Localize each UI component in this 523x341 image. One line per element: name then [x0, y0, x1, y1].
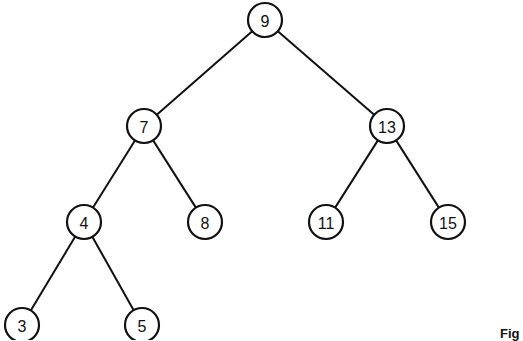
node-value: 11: [318, 215, 335, 232]
tree-node-4: 4: [67, 205, 101, 239]
node-value: 3: [18, 318, 27, 335]
tree-edge-13-11: [335, 140, 378, 207]
tree-edges: [31, 31, 439, 310]
tree-edge-4-5: [92, 237, 133, 310]
figure-caption-label: Fig: [500, 326, 520, 341]
node-value: 15: [439, 215, 457, 232]
tree-node-7: 7: [127, 109, 161, 143]
tree-node-9: 9: [248, 3, 282, 37]
tree-node-5: 5: [125, 308, 159, 340]
tree-node-8: 8: [188, 205, 222, 239]
tree-edge-7-8: [153, 140, 196, 207]
tree-node-11: 11: [309, 205, 343, 239]
node-value: 5: [138, 318, 147, 335]
tree-node-13: 13: [370, 109, 404, 143]
node-value: 4: [80, 215, 89, 232]
tree-node-15: 15: [431, 205, 465, 239]
tree-edge-13-15: [396, 140, 439, 207]
node-value: 13: [378, 119, 396, 136]
tree-edge-4-3: [31, 237, 75, 311]
node-value: 8: [201, 215, 210, 232]
tree-nodes: 971348111535: [5, 3, 465, 340]
node-value: 7: [140, 119, 149, 136]
tree-edge-9-7: [157, 31, 252, 115]
tree-edge-9-13: [278, 31, 374, 115]
tree-edge-7-4: [93, 140, 135, 207]
node-value: 9: [261, 13, 270, 30]
tree-node-3: 3: [5, 308, 39, 340]
